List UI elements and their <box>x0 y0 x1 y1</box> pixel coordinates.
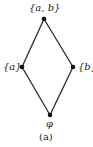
node-label-b: {b} <box>78 62 93 72</box>
node-empty <box>48 113 53 118</box>
node-label-ab: {a, b} <box>29 3 60 13</box>
edge-a-empty <box>22 67 50 115</box>
edge-ab-b <box>44 19 73 67</box>
diagram-caption: (a) <box>39 132 53 142</box>
edge-b-empty <box>50 67 73 115</box>
node-ab <box>42 17 47 22</box>
edge-ab-a <box>22 19 44 67</box>
node-label-a: {a} <box>3 62 22 72</box>
node-b <box>71 65 76 70</box>
hasse-diagram: {a, b} {a} {b} φ (a) <box>0 0 93 147</box>
node-label-empty: φ <box>46 119 53 129</box>
